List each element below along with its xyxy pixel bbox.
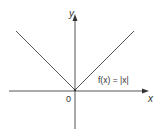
y-axis-label: y (68, 8, 75, 19)
function-label: f(x) = |x| (98, 75, 129, 85)
x-axis-label: x (147, 93, 154, 104)
origin-label: 0 (66, 94, 71, 104)
abs-value-graph: y x 0 f(x) = |x| (0, 0, 162, 129)
vertex-point (74, 89, 76, 91)
